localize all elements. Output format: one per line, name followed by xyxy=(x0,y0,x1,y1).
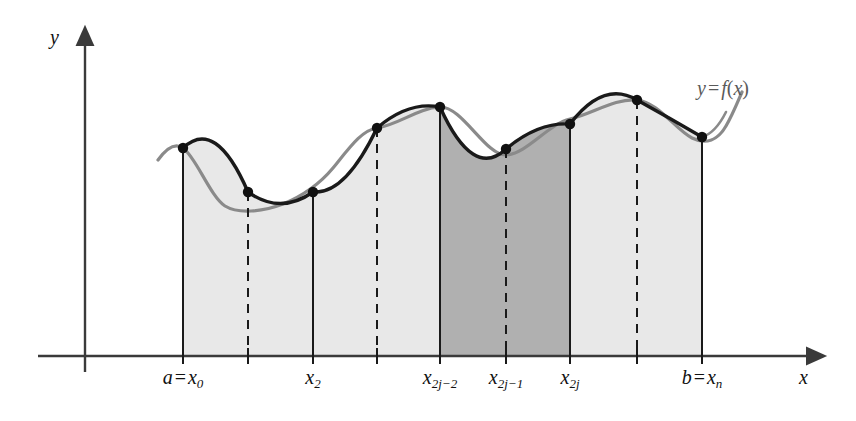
tick-var: x xyxy=(423,366,432,388)
curve-label-close-paren: ) xyxy=(742,77,749,99)
tick-label-b-xn: b=xn xyxy=(682,366,723,392)
tick-var: x xyxy=(489,366,498,388)
tick-label-x2j-1: x2j−1 xyxy=(489,366,523,392)
curve-label-equals: = xyxy=(706,77,721,99)
curve-label-arg: x xyxy=(733,77,742,99)
tick-var: x xyxy=(305,366,314,388)
tick-var: x xyxy=(707,366,716,388)
node-x2j xyxy=(565,119,575,129)
node-x0 xyxy=(178,143,188,153)
tick-equals: = xyxy=(692,366,707,388)
simpsons-rule-diagram xyxy=(0,0,856,421)
tick-label-x2j-2: x2j−2 xyxy=(423,366,457,392)
tick-label-a-x0: a=x0 xyxy=(163,366,204,392)
tick-subscript: 2j−1 xyxy=(498,376,523,391)
curve-label-y: y xyxy=(697,77,706,99)
tick-equals: = xyxy=(173,366,188,388)
node-x2j-2 xyxy=(435,102,445,112)
curve-label-y-equals-fx: y=f(x) xyxy=(697,77,749,100)
tick-subscript: 0 xyxy=(197,376,204,391)
node-xn xyxy=(697,132,707,142)
y-axis-label: y xyxy=(50,26,59,49)
tick-subscript: 2 xyxy=(314,376,321,391)
node-x2 xyxy=(308,187,318,197)
tick-var: x xyxy=(188,366,197,388)
tick-base: b xyxy=(682,366,692,388)
shaded-area-light-left xyxy=(183,106,440,356)
figure-canvas: y x y=f(x) a=x0x2x2j−2x2j−1x2jb=xn xyxy=(0,0,856,421)
tick-subscript: 2j−2 xyxy=(432,376,457,391)
tick-label-x2j: x2j xyxy=(560,366,579,392)
node-x3 xyxy=(372,123,382,133)
tick-label-x2: x2 xyxy=(305,366,320,392)
tick-subscript: 2j xyxy=(569,376,579,391)
tick-base: a xyxy=(163,366,173,388)
tick-subscript: n xyxy=(716,376,723,391)
node-x1 xyxy=(243,187,253,197)
node-x2j-1 xyxy=(501,144,511,154)
x-axis-label: x xyxy=(799,366,808,389)
node-x2j+1 xyxy=(632,95,642,105)
